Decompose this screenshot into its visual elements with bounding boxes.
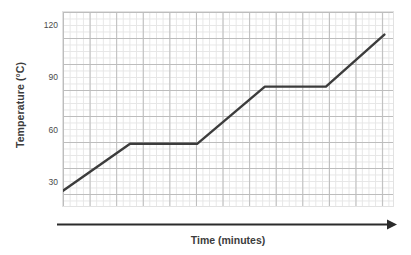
- y-tick-label-120: 120: [18, 20, 58, 30]
- x-axis-label: Time (minutes): [62, 234, 394, 246]
- data-series-line: [63, 12, 394, 207]
- temperature-vs-time-chart: Temperature (°C) 120 90 60 30 Time (minu…: [0, 0, 411, 255]
- plot-area: [62, 11, 394, 207]
- y-tick-label-30: 30: [18, 177, 58, 187]
- y-axis-ticks: 120 90 60 30: [14, 0, 58, 255]
- x-axis-arrow-icon: [56, 216, 401, 233]
- y-tick-label-90: 90: [18, 72, 58, 82]
- y-tick-label-60: 60: [18, 125, 58, 135]
